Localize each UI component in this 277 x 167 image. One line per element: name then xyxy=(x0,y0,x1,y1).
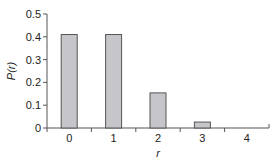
y-tick-label: 0.4 xyxy=(26,31,41,43)
bar-2 xyxy=(150,93,166,128)
y-tick-label: 0.5 xyxy=(26,8,41,20)
x-tick-label: 2 xyxy=(155,132,161,144)
bar-3 xyxy=(194,122,210,128)
bars xyxy=(61,35,210,128)
y-tick-label: 0 xyxy=(35,122,41,134)
x-tick-label: 4 xyxy=(244,132,250,144)
x-tick-label: 0 xyxy=(66,132,72,144)
bar-1 xyxy=(106,35,122,128)
y-tick-label: 0.3 xyxy=(26,54,41,66)
x-tick-label: 3 xyxy=(199,132,205,144)
bar-chart: 00.10.20.30.40.5 01234 P(r) r xyxy=(0,0,277,167)
y-axis: 00.10.20.30.40.5 xyxy=(26,8,47,134)
y-tick-label: 0.2 xyxy=(26,76,41,88)
bar-0 xyxy=(61,35,77,128)
x-tick-label: 1 xyxy=(111,132,117,144)
y-tick-label: 0.1 xyxy=(26,99,41,111)
x-axis-label: r xyxy=(156,147,161,159)
y-axis-label: P(r) xyxy=(5,62,17,81)
